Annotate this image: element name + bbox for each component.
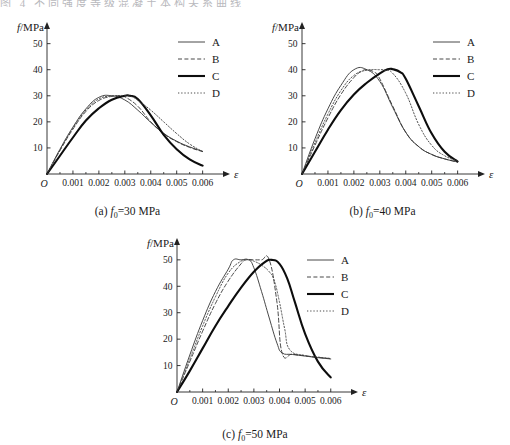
legend-label-c: C (341, 288, 348, 300)
series-line-c (302, 69, 458, 174)
legend-label-b: B (467, 53, 474, 65)
legend-label-a: A (212, 36, 220, 48)
chart-a-svg: 10203040500.0010.0020.0030.0040.0050.006… (0, 8, 255, 204)
y-tick-label: 40 (33, 65, 43, 75)
series-line-a (177, 259, 331, 392)
chart-b-svg: 10203040500.0010.0020.0030.0040.0050.006… (255, 8, 510, 204)
series-line-a (47, 95, 203, 174)
x-tick-label: 0.001 (317, 178, 339, 188)
x-tick-label: 0.006 (192, 178, 214, 188)
y-tick-label: 10 (288, 143, 298, 153)
x-tick-label: 0.003 (114, 178, 136, 188)
origin-label: O (295, 178, 302, 189)
x-axis-title: ε (234, 168, 239, 180)
chart-panel-b: 10203040500.0010.0020.0030.0040.0050.006… (255, 8, 510, 222)
x-tick-label: 0.003 (369, 178, 391, 188)
chart-c-caption-value: =50 MPa (245, 428, 288, 440)
series-line-d (302, 69, 458, 174)
x-tick-label: 0.001 (192, 396, 214, 406)
y-tick-label: 40 (288, 65, 298, 75)
legend-label-c: C (467, 70, 474, 82)
y-tick-label: 50 (288, 39, 298, 49)
y-tick-label: 40 (163, 282, 173, 292)
origin-label: O (40, 178, 47, 189)
series-line-d (47, 96, 203, 174)
y-tick-label: 10 (163, 361, 173, 371)
legend-label-d: D (212, 87, 220, 99)
x-tick-label: 0.005 (166, 178, 188, 188)
chart-b-caption-value: =40 MPa (373, 205, 416, 217)
legend-label-d: D (341, 305, 349, 317)
series-line-b (47, 95, 203, 174)
y-tick-label: 30 (288, 91, 298, 101)
chart-a-caption-prefix: (a) (95, 205, 108, 217)
y-tick-label: 20 (33, 117, 43, 127)
chart-panel-c: 10203040500.0010.0020.0030.0040.0050.006… (127, 222, 383, 445)
legend-label-c: C (212, 70, 219, 82)
x-tick-label: 0.004 (395, 178, 417, 188)
y-tick-label: 30 (163, 308, 173, 318)
chart-panel-a: 10203040500.0010.0020.0030.0040.0050.006… (0, 8, 255, 222)
chart-a-caption: (a) f0=30 MPa (0, 205, 255, 220)
x-tick-label: 0.004 (140, 178, 162, 188)
chart-c-svg: 10203040500.0010.0020.0030.0040.0050.006… (127, 222, 383, 422)
y-tick-label: 10 (33, 143, 43, 153)
series-line-d (177, 259, 331, 392)
x-tick-label: 0.002 (218, 396, 240, 406)
legend-label-b: B (341, 271, 348, 283)
x-tick-label: 0.006 (320, 396, 342, 406)
chart-legend: ABCD (433, 36, 475, 99)
x-tick-label: 0.003 (243, 396, 265, 406)
chart-legend: ABCD (307, 254, 349, 317)
series-line-c (47, 95, 203, 174)
cropped-header-text: 图 4 不同强度等级混凝土本构关系曲线 (0, 0, 510, 7)
chart-b-caption: (b) f0=40 MPa (255, 205, 510, 220)
x-tick-label: 0.006 (447, 178, 469, 188)
y-tick-label: 30 (33, 91, 43, 101)
y-tick-label: 20 (163, 334, 173, 344)
series-line-a (302, 67, 458, 174)
legend-label-a: A (341, 254, 349, 266)
chart-b-caption-prefix: (b) (349, 205, 362, 217)
cropped-header-label: 图 4 不同强度等级混凝土本构关系曲线 (0, 0, 244, 7)
series-line-b (302, 70, 458, 174)
x-axis-title: ε (362, 386, 367, 398)
x-tick-label: 0.005 (294, 396, 316, 406)
legend-label-d: D (467, 87, 475, 99)
legend-label-b: B (212, 53, 219, 65)
y-axis-title: f/MPa (17, 21, 44, 33)
x-axis-title: ε (489, 168, 494, 180)
chart-legend: ABCD (178, 36, 220, 99)
legend-label-a: A (467, 36, 475, 48)
x-tick-label: 0.001 (62, 178, 84, 188)
chart-c-caption-prefix: (c) (222, 428, 235, 440)
y-axis-title: f/MPa (147, 237, 174, 249)
y-tick-label: 20 (288, 117, 298, 127)
x-tick-label: 0.005 (421, 178, 443, 188)
y-tick-label: 50 (163, 255, 173, 265)
origin-label: O (170, 396, 177, 407)
x-tick-label: 0.004 (269, 396, 291, 406)
series-line-b (177, 256, 331, 392)
figure-grid: 10203040500.0010.0020.0030.0040.0050.006… (0, 8, 510, 445)
y-axis-title: f/MPa (272, 21, 299, 33)
chart-a-caption-value: =30 MPa (118, 205, 161, 217)
x-tick-label: 0.002 (343, 178, 365, 188)
y-tick-label: 50 (33, 39, 43, 49)
x-tick-label: 0.002 (88, 178, 110, 188)
chart-c-caption: (c) f0=50 MPa (127, 428, 383, 443)
